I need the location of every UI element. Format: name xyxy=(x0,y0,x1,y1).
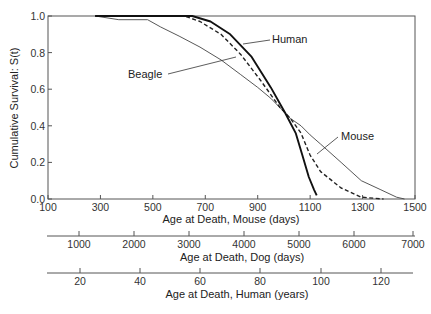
x-axis-mouse: 100300500700900110013001500 xyxy=(39,195,427,213)
dog-tick-label: 6000 xyxy=(342,238,366,250)
x-tick-label: 1300 xyxy=(351,201,375,213)
dog-tick-label: 7000 xyxy=(401,238,425,250)
x-tick-label: 100 xyxy=(39,201,57,213)
x-tick-label: 1100 xyxy=(299,201,322,213)
y-tick-label: 0.6 xyxy=(30,83,45,95)
x-axis-human: 20406080100120 xyxy=(47,268,413,287)
y-axis-label: Cumulative Survival: S(t) xyxy=(8,47,20,168)
beagle-leader-line xyxy=(168,57,236,74)
human-tick-label: 120 xyxy=(372,275,390,287)
x-tick-label: 900 xyxy=(249,201,267,213)
human-tick-label: 100 xyxy=(312,275,330,287)
x-axis-label-mouse: Age at Death, Mouse (days) xyxy=(163,213,300,225)
dog-tick-label: 2000 xyxy=(122,238,146,250)
dog-tick-label: 4000 xyxy=(232,238,256,250)
human-tick-label: 40 xyxy=(134,275,146,287)
plot-frame xyxy=(48,16,415,199)
survival-chart: 0.00.20.40.60.81.0 100300500700900110013… xyxy=(0,0,431,314)
y-tick-label: 1.0 xyxy=(30,10,45,22)
x-tick-label: 500 xyxy=(144,201,162,213)
y-tick-label: 0.4 xyxy=(30,120,45,132)
dog-tick-label: 5000 xyxy=(287,238,311,250)
x-axis-dog: 1000200030004000500060007000 xyxy=(47,231,425,250)
human-annotation: Human xyxy=(272,33,307,45)
human-tick-label: 80 xyxy=(254,275,266,287)
dog-tick-label: 1000 xyxy=(67,238,91,250)
human-tick-label: 20 xyxy=(74,275,86,287)
mouse-annotation: Mouse xyxy=(341,130,374,142)
y-axis: 0.00.20.40.60.81.0 xyxy=(30,10,52,205)
x-tick-label: 1500 xyxy=(403,201,427,213)
mouse-curve xyxy=(95,16,404,199)
x-tick-label: 700 xyxy=(197,201,215,213)
y-tick-label: 0.2 xyxy=(30,156,45,168)
human-leader-line xyxy=(243,40,270,44)
x-axis-label-human: Age at Death, Human (years) xyxy=(165,288,308,300)
human-tick-label: 60 xyxy=(194,275,206,287)
series-group xyxy=(95,16,404,199)
dog-tick-label: 3000 xyxy=(177,238,201,250)
x-axis-label-dog: Age at Death, Dog (days) xyxy=(180,251,304,263)
mouse-leader-line xyxy=(317,137,338,154)
x-tick-label: 300 xyxy=(92,201,110,213)
beagle-annotation: Beagle xyxy=(128,68,162,80)
y-tick-label: 0.8 xyxy=(30,47,45,59)
